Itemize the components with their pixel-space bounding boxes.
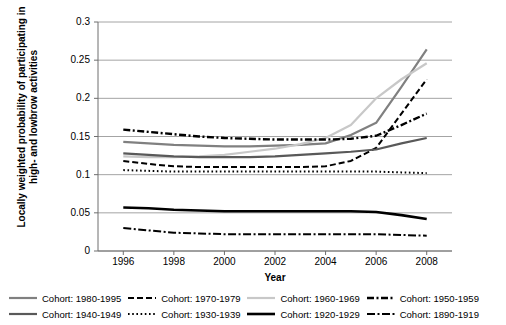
series-line-5: [123, 170, 426, 173]
legend-swatch-icon: [8, 293, 38, 303]
legend-item[interactable]: Cohort: 1940-1949: [8, 309, 121, 320]
legend-label: Cohort: 1920-1929: [280, 309, 359, 320]
legend-item[interactable]: Cohort: 1950-1959: [366, 293, 479, 304]
legend-label: Cohort: 1960-1969: [280, 293, 359, 304]
series-line-2: [123, 63, 426, 157]
legend-label: Cohort: 1970-1979: [161, 293, 240, 304]
legend-label: Cohort: 1930-1939: [161, 309, 240, 320]
legend-label: Cohort: 1890-1919: [400, 309, 479, 320]
legend-swatch-icon: [366, 293, 396, 303]
legend-swatch-icon: [127, 309, 157, 319]
legend-row: Cohort: 1980-1995Cohort: 1970-1979Cohort…: [8, 290, 500, 306]
legend-item[interactable]: Cohort: 1960-1969: [246, 293, 359, 304]
legend-item[interactable]: Cohort: 1970-1979: [127, 293, 240, 304]
series-line-1: [123, 79, 426, 167]
legend-item[interactable]: Cohort: 1920-1929: [246, 309, 359, 320]
x-axis-title: Year: [95, 272, 455, 283]
chart-figure: Locally weighted probability of particip…: [0, 0, 506, 325]
legend-swatch-icon: [246, 293, 276, 303]
series-line-7: [123, 228, 426, 236]
legend-label: Cohort: 1940-1949: [42, 309, 121, 320]
legend-item[interactable]: Cohort: 1930-1939: [127, 309, 240, 320]
legend-row: Cohort: 1940-1949Cohort: 1930-1939Cohort…: [8, 306, 500, 322]
legend-swatch-icon: [246, 309, 276, 319]
legend-swatch-icon: [8, 309, 38, 319]
legend-label: Cohort: 1950-1959: [400, 293, 479, 304]
legend-item[interactable]: Cohort: 1890-1919: [366, 309, 479, 320]
legend-swatch-icon: [366, 309, 396, 319]
legend-item[interactable]: Cohort: 1980-1995: [8, 293, 121, 304]
legend-label: Cohort: 1980-1995: [42, 293, 121, 304]
legend-swatch-icon: [127, 293, 157, 303]
chart-legend: Cohort: 1980-1995Cohort: 1970-1979Cohort…: [8, 290, 500, 322]
